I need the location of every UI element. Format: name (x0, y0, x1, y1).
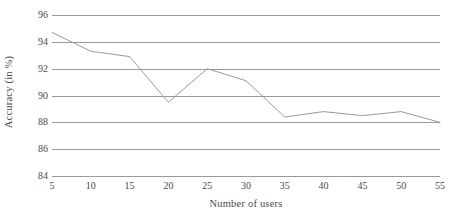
y-axis-title: Accuracy (in %) (3, 4, 17, 180)
y-tick-label: 84 (22, 171, 48, 181)
y-tick-label: 92 (22, 64, 48, 74)
x-axis-tick-labels: 510152025303540455055 (52, 180, 440, 194)
x-tick-label: 35 (280, 180, 290, 192)
x-tick-label: 45 (357, 180, 367, 192)
x-tick-label: 10 (86, 180, 96, 192)
x-tick-label: 25 (202, 180, 212, 192)
y-tick-label: 88 (22, 117, 48, 127)
y-tick-label: 96 (22, 10, 48, 20)
x-tick-label: 20 (163, 180, 173, 192)
x-tick-label: 5 (50, 180, 55, 192)
y-axis-tick-labels: 84868890929496 (22, 0, 48, 219)
x-tick-label: 55 (435, 180, 445, 192)
gridline (52, 176, 440, 177)
x-tick-label: 15 (125, 180, 135, 192)
plot-area (52, 15, 440, 176)
y-tick-label: 86 (22, 144, 48, 154)
x-tick-label: 50 (396, 180, 406, 192)
accuracy-vs-users-line-chart: Accuracy (in %) 84868890929496 510152025… (0, 0, 449, 219)
y-tick-label: 90 (22, 91, 48, 101)
y-tick-label: 94 (22, 37, 48, 47)
x-tick-label: 40 (319, 180, 329, 192)
series-polyline (52, 32, 440, 122)
series-line-accuracy (52, 15, 440, 176)
x-tick-label: 30 (241, 180, 251, 192)
x-axis-title: Number of users (52, 198, 440, 209)
